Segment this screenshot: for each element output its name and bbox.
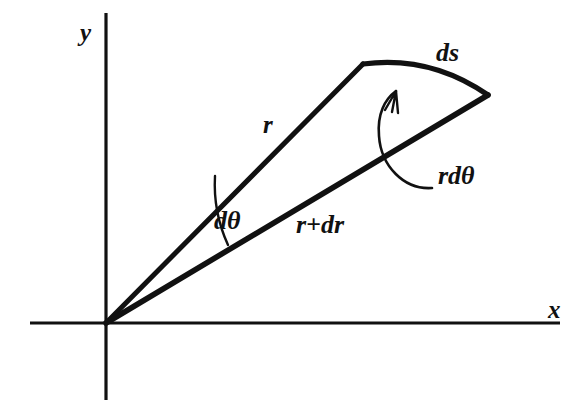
polar-element-diagram <box>0 0 581 414</box>
x-axis-label: x <box>548 297 561 322</box>
y-axis-label: y <box>80 20 91 45</box>
arc-ds-path <box>363 62 488 95</box>
wedge-group <box>106 62 488 323</box>
angle-dtheta-label: dθ <box>214 208 241 234</box>
axes-group <box>30 13 560 400</box>
radius-outer-label: r+dr <box>296 212 344 238</box>
radius-inner-label: r <box>263 112 273 137</box>
leader-arrow-group <box>379 91 432 188</box>
figure-container: y x r r+dr dθ ds rdθ <box>0 0 581 414</box>
arc-ds-label: ds <box>436 40 459 66</box>
arc-side-rdtheta-label: rdθ <box>438 163 475 189</box>
